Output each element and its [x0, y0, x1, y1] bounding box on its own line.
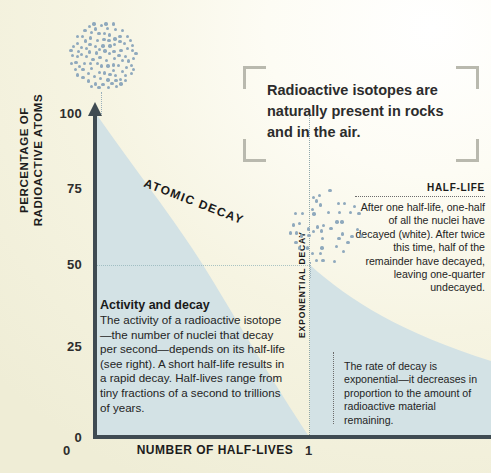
atom-dot [69, 49, 72, 52]
atom-dot [112, 50, 115, 53]
atom-dot [338, 211, 341, 214]
atom-dot [333, 260, 336, 263]
y-tick-25: 25 [30, 339, 82, 354]
atom-dot [80, 53, 83, 56]
atom-dot [319, 252, 322, 255]
gridline-50-percent [97, 265, 310, 266]
atom-dot [311, 208, 314, 211]
atom-dot [94, 45, 97, 48]
atom-dot [108, 52, 111, 55]
atom-dot [113, 57, 116, 60]
activity-and-decay-block: Activity and decay The activity of a rad… [100, 298, 290, 415]
atom-dot [130, 64, 133, 67]
atom-dot [335, 245, 338, 248]
half-life-heading: HALF-LIFE [355, 182, 485, 193]
atom-dot [92, 22, 95, 25]
atom-dot [80, 46, 83, 49]
atom-dot [76, 55, 79, 58]
atom-dot [350, 235, 353, 238]
atom-dot [70, 62, 73, 65]
atom-dot [124, 74, 127, 77]
y-tick-0: 0 [30, 430, 82, 445]
atom-dot [342, 250, 345, 253]
atom-dot [311, 252, 314, 255]
atom-dot [353, 205, 356, 208]
exponential-note-divider [333, 352, 334, 424]
pull-quote-text: Radioactive isotopes are naturally prese… [267, 80, 463, 143]
atom-dot [100, 24, 103, 27]
atom-dot [307, 227, 310, 230]
atom-dot [83, 29, 86, 32]
atom-dot [343, 202, 346, 205]
atom-dot [77, 50, 80, 53]
atom-dot [119, 82, 122, 85]
atom-dot [96, 62, 99, 65]
x-tick-1: 1 [305, 443, 312, 458]
atom-dot [90, 67, 93, 70]
atom-dot [320, 246, 323, 249]
atom-dot [318, 194, 321, 197]
atom-dot [87, 72, 90, 75]
atom-dot [99, 77, 102, 80]
atom-dot [94, 27, 97, 30]
atom-dot [110, 82, 113, 85]
atom-dot [104, 22, 107, 25]
atom-dot [335, 220, 338, 223]
atom-dot [112, 22, 115, 25]
atom-dot [87, 79, 90, 82]
atom-dot [295, 231, 298, 234]
atom-dot [356, 228, 359, 231]
bracket-bottom-left-icon [243, 139, 266, 162]
atom-dot [113, 37, 116, 40]
atom-dot [74, 68, 77, 71]
atom-dot [312, 196, 315, 199]
atom-dot [89, 36, 92, 39]
atom-dot [114, 74, 117, 77]
atom-dot [114, 28, 117, 31]
atom-dot [88, 50, 91, 53]
atom-dot [108, 44, 111, 47]
atom-dot [118, 40, 121, 43]
atom-dot [130, 72, 133, 75]
atom-dot [300, 234, 303, 237]
atom-dot [98, 48, 101, 51]
atom-dot [124, 79, 127, 82]
x-tick-0: 0 [63, 443, 70, 458]
atom-dot [315, 199, 318, 202]
atom-dot [329, 227, 332, 230]
half-life-block: HALF-LIFE After one half-life, one-half … [355, 182, 485, 295]
x-axis-title: NUMBER OF HALF-LIVES [125, 443, 305, 457]
atom-dot [307, 234, 310, 237]
atom-dot [312, 212, 315, 215]
atom-dot [292, 223, 295, 226]
atom-dot [81, 35, 84, 38]
atom-dot [125, 66, 128, 69]
y-tick-50: 50 [30, 257, 82, 272]
atom-dot [106, 78, 109, 81]
atom-dot [97, 32, 100, 35]
atom-dot [315, 259, 318, 262]
atom-dot [112, 63, 115, 66]
atom-dot [85, 55, 88, 58]
atom-dot [103, 32, 106, 35]
atom-dot [320, 229, 323, 232]
atom-dot [81, 76, 84, 79]
atom-dot [322, 224, 325, 227]
exponential-note-block: The rate of decay is exponential—it decr… [344, 360, 484, 427]
atom-dot [121, 29, 124, 32]
atom-dot [327, 211, 330, 214]
atom-dot [131, 44, 134, 47]
atom-dot [113, 43, 116, 46]
atom-dot [301, 212, 304, 215]
atom-dot [316, 225, 319, 228]
atom-dot [360, 234, 363, 237]
atom-dot [127, 59, 130, 62]
pull-quote: Radioactive isotopes are naturally prese… [243, 66, 479, 162]
atom-dot [289, 231, 292, 234]
atom-dot [76, 35, 79, 38]
atom-dot [95, 51, 98, 54]
atom-dot [298, 222, 301, 225]
atom-dot [76, 73, 79, 76]
atom-dot [74, 61, 77, 64]
atom-dot [102, 38, 105, 41]
